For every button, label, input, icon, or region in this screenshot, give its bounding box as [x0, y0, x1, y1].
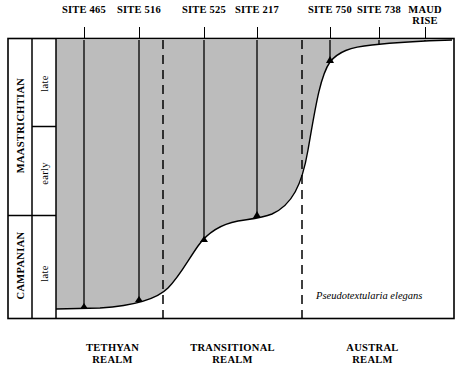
realm-austral: AUSTRAL REALM	[310, 330, 435, 366]
range-chart-svg	[0, 0, 464, 367]
realm-austral-text: AUSTRAL REALM	[346, 342, 398, 365]
stage-maastrichtian: MAASTRICHTIAN	[15, 71, 26, 181]
substage-late-maastrichtian-text: late	[39, 75, 50, 91]
realm-tethyan-text: TETHYAN REALM	[86, 342, 139, 365]
species-annotation-text: Pseudotextularia elegans	[316, 290, 422, 301]
shaded-range-field	[56, 40, 452, 309]
realm-tethyan: TETHYAN REALM	[60, 330, 165, 366]
stage-campanian: CAMPANIAN	[15, 223, 26, 309]
substage-late-maastrichtian: late	[39, 67, 50, 101]
substage-late-campanian-text: late	[39, 265, 50, 281]
species-annotation: Pseudotextularia elegans	[316, 290, 422, 301]
realm-transitional-text: TRANSITIONAL REALM	[190, 342, 275, 365]
stage-campanian-text: CAMPANIAN	[15, 232, 26, 300]
stage-maastrichtian-text: MAASTRICHTIAN	[15, 78, 26, 174]
substage-early-maastrichtian-text: early	[39, 162, 50, 185]
substage-early-maastrichtian: early	[39, 155, 50, 193]
realm-transitional: TRANSITIONAL REALM	[170, 330, 295, 366]
substage-late-campanian: late	[39, 257, 50, 291]
figure-root: SITE 465 SITE 516 SITE 525 SITE 217 SITE…	[0, 0, 464, 367]
